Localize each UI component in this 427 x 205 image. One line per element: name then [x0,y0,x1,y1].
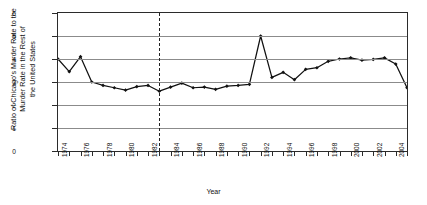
y-tick-label-4: 4 [0,56,16,63]
x-tick-label-2000: 2000 [353,143,360,157]
x-tick-mark-1999 [340,152,341,156]
data-point-1991 [248,82,252,86]
x-tick-mark-1995 [294,152,295,156]
x-tick-mark-1994 [283,152,284,156]
x-tick-mark-1993 [272,152,273,156]
x-tick-label-1980: 1980 [128,143,135,157]
gridline-4 [58,59,407,60]
x-tick-mark-1979 [114,152,115,156]
x-tick-label-1982: 1982 [151,143,158,157]
gridline-1 [58,128,407,129]
x-tick-label-1996: 1996 [308,143,315,157]
vertical-reference-line [159,13,160,151]
data-point-1981 [135,85,139,89]
gridline-5 [58,36,407,37]
x-tick-mark-2002 [373,152,374,156]
y-tick-label-0: 0 [0,148,16,155]
x-tick-mark-1989 [227,152,228,156]
x-tick-label-1986: 1986 [196,143,203,157]
data-point-1986 [191,86,195,90]
x-tick-mark-2005 [407,152,408,156]
y-axis-title-line-3: the United States [28,41,37,97]
x-tick-label-1984: 1984 [173,143,180,157]
x-tick-mark-1986 [193,152,194,156]
data-point-1980 [124,88,128,92]
x-tick-label-1976: 1976 [83,143,90,157]
x-tick-mark-1990 [238,152,239,156]
x-tick-label-1992: 1992 [263,143,270,157]
x-tick-mark-1987 [204,152,205,156]
plot-area [57,12,408,152]
y-tick-label-2: 2 [0,102,16,109]
x-tick-mark-1991 [249,152,250,156]
y-axis-title-line-1: Ratio of Chicago's Murder Rate to the [9,8,18,130]
x-tick-mark-1981 [137,152,138,156]
x-tick-label-1978: 1978 [106,143,113,157]
gridline-2 [58,105,407,106]
y-tick-label-1: 1 [0,125,16,132]
data-point-1978 [101,84,105,88]
x-tick-label-1990: 1990 [241,143,248,157]
data-point-1979 [112,86,116,90]
x-tick-mark-2003 [385,152,386,156]
y-tick-label-3: 3 [0,79,16,86]
y-axis-title-line-2: Murder Rate in the Rest of [18,26,27,112]
x-tick-label-1988: 1988 [218,143,225,157]
x-tick-mark-2001 [362,152,363,156]
data-point-1989 [225,84,229,88]
data-point-1984 [169,85,173,89]
x-tick-mark-1982 [148,152,149,156]
data-point-1993 [270,76,274,80]
y-axis-title: Ratio of Chicago's Murder Rate to the Mu… [0,0,46,144]
x-tick-label-1974: 1974 [61,143,68,157]
x-tick-mark-1992 [261,152,262,156]
x-tick-label-1998: 1998 [331,143,338,157]
x-tick-label-1994: 1994 [286,143,293,157]
x-tick-mark-1997 [317,152,318,156]
x-tick-mark-2004 [396,152,397,156]
x-tick-mark-1983 [159,152,160,156]
chart-figure: Ratio of Chicago's Murder Rate to the Mu… [0,0,427,205]
x-tick-label-2002: 2002 [376,143,383,157]
x-tick-mark-1985 [182,152,183,156]
y-tick-label-5: 5 [0,33,16,40]
y-tick-label-6: 6 [0,10,16,17]
x-tick-mark-1976 [81,152,82,156]
data-point-1987 [203,85,207,89]
x-tick-mark-1988 [216,152,217,156]
x-tick-mark-1977 [92,152,93,156]
gridline-3 [58,82,407,83]
x-axis-title: Year [0,188,427,195]
x-tick-label-2004: 2004 [398,143,405,157]
data-point-1988 [214,88,218,92]
data-point-1990 [236,84,240,88]
x-tick-mark-1974 [58,152,59,156]
x-tick-mark-2000 [351,152,352,156]
x-tick-mark-1980 [126,152,127,156]
x-tick-mark-1978 [103,152,104,156]
x-tick-mark-1975 [69,152,70,156]
x-tick-mark-1984 [171,152,172,156]
x-tick-mark-1998 [328,152,329,156]
x-tick-mark-1996 [306,152,307,156]
